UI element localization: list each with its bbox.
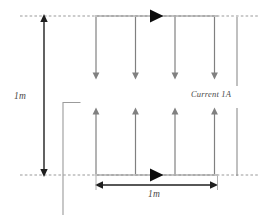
field-arrow-up xyxy=(211,108,218,175)
field-arrow-down xyxy=(211,17,218,80)
field-arrow-down xyxy=(132,17,139,80)
left-terminal-lead xyxy=(63,103,81,216)
field-arrow-down xyxy=(93,17,100,80)
dimension-height xyxy=(40,14,47,177)
current-direction-marker-top xyxy=(150,10,164,23)
dimension-height-arrowhead-top xyxy=(40,14,47,22)
field-arrows-lower xyxy=(93,108,218,175)
width-dimension-label: 1m xyxy=(148,190,160,200)
current-direction-markers xyxy=(150,10,164,182)
field-arrow-up xyxy=(132,108,139,175)
field-arrows-upper xyxy=(93,17,218,80)
dimension-height-arrowhead-bottom xyxy=(40,169,47,177)
height-dimension-label: 1m xyxy=(14,92,26,102)
current-direction-marker-bottom xyxy=(150,169,164,182)
dimension-width-arrowhead-right xyxy=(210,181,218,188)
field-arrow-up xyxy=(93,108,100,175)
diagram-vector-layer xyxy=(0,0,261,215)
field-arrow-down xyxy=(172,17,179,80)
physics-diagram-canvas: 1m 1m Current 1A xyxy=(0,0,261,215)
current-label: Current 1A xyxy=(191,90,231,99)
field-arrow-up xyxy=(172,108,179,175)
left-terminal-lead-path xyxy=(63,103,81,216)
